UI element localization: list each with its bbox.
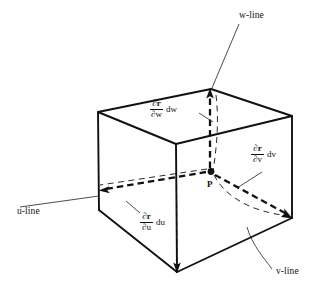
- vector-arrowheads: [99, 88, 293, 273]
- fraction-denominator: ∂u: [141, 223, 152, 233]
- vector-label-dr-du: ∂r ∂u du: [140, 212, 165, 233]
- fraction-denominator: ∂w: [150, 110, 163, 120]
- fraction-denominator: ∂v: [252, 155, 263, 165]
- fraction-dr-dv: ∂r ∂v: [251, 144, 264, 165]
- box-top-face: [98, 89, 292, 144]
- fraction-numerator: ∂r: [252, 144, 262, 154]
- u-line-label: u-line: [17, 207, 40, 217]
- w-curve-dashed: [213, 95, 217, 171]
- w-line-label: w-line: [239, 11, 264, 21]
- vector-dr-du: [106, 172, 206, 189]
- du-label-leader: [126, 201, 140, 213]
- arrowhead-v: [281, 209, 293, 219]
- vector-label-dr-dw: ∂r ∂w dw: [150, 99, 177, 120]
- differential-dw: dw: [166, 105, 177, 114]
- box-solid-edges: [98, 89, 292, 272]
- point-p-marker: [208, 168, 215, 175]
- v-line-label: v-line: [276, 267, 299, 277]
- vector-label-dr-dv: ∂r ∂v dv: [251, 144, 276, 165]
- vector-dr-dv: [215, 175, 285, 213]
- differential-du: du: [156, 218, 165, 227]
- differential-dv: dv: [267, 150, 276, 159]
- dv-label-leader: [237, 172, 262, 188]
- u-curve-dashed: [100, 169, 207, 185]
- fraction-numerator: ∂r: [141, 212, 151, 222]
- coordinate-volume-element-figure: w-line u-line v-line P ∂r ∂w dw ∂r ∂v dv…: [0, 0, 320, 296]
- box-edge-bottom-left: [99, 210, 177, 272]
- fraction-dr-dw: ∂r ∂w: [150, 99, 163, 120]
- box-edge-left-vertical: [98, 112, 99, 210]
- fraction-dr-du: ∂r ∂u: [140, 212, 153, 233]
- w-line-leader: [212, 24, 239, 88]
- fraction-numerator: ∂r: [151, 99, 161, 109]
- point-p-label: P: [207, 180, 213, 189]
- box-edge-bottom-right: [177, 218, 292, 272]
